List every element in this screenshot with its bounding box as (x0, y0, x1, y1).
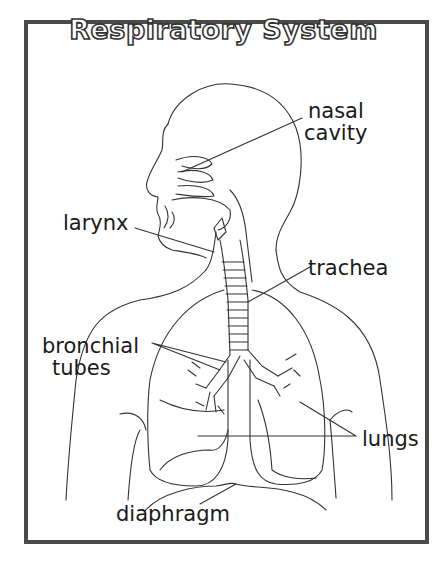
label-tubes-text: tubes (52, 357, 139, 379)
head-outline (168, 84, 301, 250)
label-bronchial-text: bronchial (42, 335, 139, 357)
respiratory-anatomy-drawing (0, 0, 447, 562)
label-cavity-text: cavity (304, 122, 367, 144)
right-lung (250, 290, 325, 484)
label-nasal-text: nasal (308, 100, 367, 122)
label-larynx: larynx (63, 212, 129, 234)
label-bronchial-tubes: bronchial tubes (42, 335, 139, 379)
label-lungs: lungs (362, 428, 419, 450)
face-profile (147, 124, 206, 258)
left-lung (148, 290, 228, 486)
label-trachea: trachea (308, 257, 388, 279)
label-diaphragm: diaphragm (116, 503, 230, 525)
label-nasal-cavity: nasal cavity (308, 100, 367, 144)
